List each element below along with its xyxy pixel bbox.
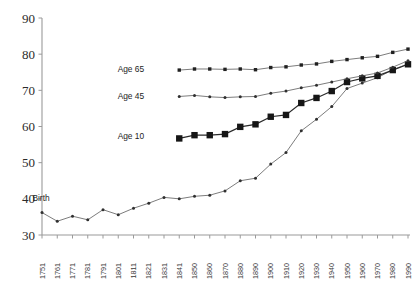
data-point: [330, 81, 333, 84]
data-point: [223, 68, 226, 71]
series-layer: [41, 47, 412, 222]
x-tick-label: 1950: [343, 263, 352, 279]
series-label-age-10: Age 10: [118, 131, 145, 141]
series-labels: BirthAge 10Age 45Age 65: [32, 64, 144, 203]
data-point: [361, 74, 364, 77]
data-point: [406, 47, 409, 50]
data-point: [102, 208, 105, 211]
x-tick-label: 1791: [99, 263, 108, 279]
data-point: [300, 86, 303, 89]
data-point: [41, 211, 44, 214]
series-line-age-65: [179, 49, 408, 70]
x-tick-label: 1771: [68, 263, 77, 279]
data-point: [345, 58, 348, 61]
data-point: [391, 51, 394, 54]
data-point: [315, 118, 318, 121]
x-tick-label: 1801: [114, 263, 123, 279]
x-tick-label: 1900: [266, 263, 275, 279]
x-tick-label: 1910: [282, 263, 291, 279]
x-tick-label: 1831: [160, 263, 169, 279]
x-tick-label: 1811: [129, 263, 138, 278]
data-point: [191, 132, 197, 138]
series-line-birth: [42, 64, 408, 221]
data-point: [269, 163, 272, 166]
data-point: [193, 67, 196, 70]
data-point: [283, 112, 289, 118]
data-point: [237, 124, 243, 130]
data-point: [71, 215, 74, 218]
data-point: [346, 77, 349, 80]
x-tick-label: 1821: [144, 263, 153, 279]
data-point: [285, 151, 288, 154]
data-point: [208, 67, 211, 70]
data-point: [315, 84, 318, 87]
x-tick-label: 1980: [388, 263, 397, 279]
data-point: [147, 202, 150, 205]
data-point: [285, 90, 288, 93]
data-point: [254, 68, 257, 71]
life-expectancy-line-chart: 30405060708090 1751176117711781179118011…: [0, 0, 417, 281]
data-point: [268, 114, 274, 120]
y-tick-label: 80: [22, 47, 35, 62]
x-tick-label: 1751: [38, 263, 47, 279]
data-point: [254, 177, 257, 180]
data-point: [193, 195, 196, 198]
data-point: [254, 95, 257, 98]
x-tick-label: 1781: [83, 263, 92, 279]
x-tick-label: 1850: [190, 263, 199, 279]
data-point: [298, 100, 304, 106]
data-point: [361, 82, 364, 85]
y-tick-label: 90: [22, 11, 35, 26]
x-tick-label: 1990: [404, 263, 413, 279]
data-point: [376, 71, 379, 74]
x-tick-label: 1930: [312, 263, 321, 279]
y-tick-label: 50: [22, 155, 35, 170]
data-point: [176, 135, 182, 141]
data-point: [224, 189, 227, 192]
data-point: [391, 66, 394, 69]
data-point: [208, 95, 211, 98]
x-tick-label: 1841: [175, 263, 184, 279]
x-axis: 1751176117711781179118011811182118311841…: [38, 235, 413, 279]
chart-container: 30405060708090 1751176117711781179118011…: [0, 0, 417, 281]
data-point: [178, 95, 181, 98]
data-point: [284, 65, 287, 68]
y-axis: 30405060708090: [22, 11, 42, 243]
data-point: [178, 68, 181, 71]
data-point: [239, 67, 242, 70]
data-point: [269, 92, 272, 95]
data-point: [163, 196, 166, 199]
data-point: [346, 87, 349, 90]
data-point: [313, 95, 319, 101]
x-tick-label: 1890: [251, 263, 260, 279]
data-point: [207, 132, 213, 138]
x-tick-label: 1860: [205, 263, 214, 279]
data-point: [300, 129, 303, 132]
x-tick-label: 1970: [373, 263, 382, 279]
data-point: [330, 60, 333, 63]
x-tick-label: 1880: [236, 263, 245, 279]
data-point: [252, 121, 258, 127]
data-point: [315, 62, 318, 65]
data-point: [86, 218, 89, 221]
data-point: [56, 220, 59, 223]
x-tick-label: 1960: [358, 263, 367, 279]
data-point: [132, 207, 135, 210]
series-label-birth: Birth: [32, 193, 50, 203]
data-point: [330, 105, 333, 108]
series-line-age-10: [179, 64, 408, 138]
data-point: [361, 56, 364, 59]
data-point: [269, 66, 272, 69]
data-point: [224, 96, 227, 99]
x-tick-label: 1761: [53, 263, 62, 279]
x-tick-label: 1940: [327, 263, 336, 279]
data-point: [222, 131, 228, 137]
data-point: [193, 94, 196, 97]
y-tick-label: 70: [22, 83, 35, 98]
data-point: [117, 213, 120, 216]
x-tick-label: 1920: [297, 263, 306, 279]
x-tick-label: 1870: [221, 263, 230, 279]
series-label-age-45: Age 45: [118, 91, 145, 101]
data-point: [178, 197, 181, 200]
data-point: [329, 88, 335, 94]
